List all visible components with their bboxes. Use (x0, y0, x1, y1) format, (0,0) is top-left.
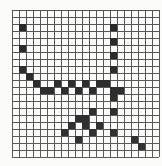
gridline-horizontal (12, 73, 159, 74)
gridline-vertical (138, 10, 139, 157)
data-point-marker (138, 143, 145, 150)
data-point-marker (110, 24, 117, 31)
data-point-marker (110, 87, 117, 94)
gridline-vertical (152, 10, 153, 157)
data-point-marker (89, 129, 96, 136)
gridline-horizontal (12, 59, 159, 60)
gridline-vertical (26, 10, 27, 157)
gridline-horizontal (12, 31, 159, 32)
gridline-horizontal (12, 108, 159, 109)
gridline-vertical (145, 10, 146, 157)
data-point-marker (68, 122, 75, 129)
data-point-marker (75, 115, 82, 122)
data-point-marker (96, 122, 103, 129)
gridline-horizontal (12, 66, 159, 67)
gridline-vertical (12, 10, 13, 157)
data-point-marker (68, 80, 75, 87)
data-point-marker (61, 87, 68, 94)
gridline-vertical (47, 10, 48, 157)
data-point-marker (110, 94, 117, 101)
gridline-vertical (159, 10, 160, 157)
data-point-marker (82, 115, 89, 122)
gridline-horizontal (12, 38, 159, 39)
data-point-marker (89, 108, 96, 115)
chart-figure (0, 0, 162, 166)
gridline-vertical (75, 10, 76, 157)
gridline-horizontal (12, 17, 159, 18)
data-point-marker (19, 24, 26, 31)
data-point-marker (110, 38, 117, 45)
data-point-marker (110, 52, 117, 59)
data-point-marker (61, 129, 68, 136)
gridline-horizontal (12, 94, 159, 95)
data-point-marker (82, 122, 89, 129)
gridline-horizontal (12, 101, 159, 102)
data-point-marker (96, 80, 103, 87)
gridline-horizontal (12, 24, 159, 25)
gridline-horizontal (12, 52, 159, 53)
data-point-marker (19, 66, 26, 73)
data-point-marker (75, 136, 82, 143)
data-point-marker (54, 80, 61, 87)
data-point-marker (103, 80, 110, 87)
gridline-horizontal (12, 150, 159, 151)
data-point-marker (40, 87, 47, 94)
gridline-horizontal (12, 157, 159, 158)
gridline-horizontal (12, 129, 159, 130)
gridline-vertical (117, 10, 118, 157)
data-point-marker (33, 80, 40, 87)
gridline-vertical (40, 10, 41, 157)
gridline-vertical (131, 10, 132, 157)
gridline-horizontal (12, 87, 159, 88)
data-point-marker (75, 87, 82, 94)
data-point-marker (110, 129, 117, 136)
data-point-marker (19, 45, 26, 52)
data-point-marker (82, 80, 89, 87)
data-point-marker (110, 108, 117, 115)
data-point-marker (131, 136, 138, 143)
data-point-marker (89, 87, 96, 94)
scatter-plot-area[interactable] (12, 10, 159, 157)
gridline-horizontal (12, 10, 159, 11)
data-point-marker (47, 87, 54, 94)
gridline-horizontal (12, 143, 159, 144)
gridline-vertical (124, 10, 125, 157)
gridline-horizontal (12, 45, 159, 46)
data-point-marker (26, 73, 33, 80)
data-point-marker (117, 87, 124, 94)
data-point-marker (110, 66, 117, 73)
gridline-vertical (19, 10, 20, 157)
